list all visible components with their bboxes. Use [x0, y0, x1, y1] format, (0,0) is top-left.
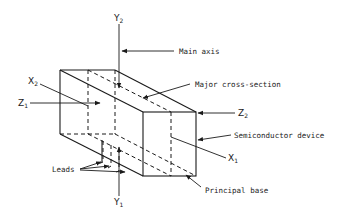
main-axis-label: Main axis [179, 47, 220, 56]
principal-base-pointer [186, 175, 201, 187]
x2-label: X2 [28, 76, 38, 87]
z1-label: Z1 [18, 98, 28, 109]
hidden-edges [60, 70, 196, 176]
semiconductor-device-pointer [198, 135, 231, 140]
x-axis [40, 84, 226, 158]
z-axis [30, 103, 235, 113]
device-box [60, 70, 196, 176]
semiconductor-device-label: Semiconductor device [234, 131, 325, 140]
major-cross-section-plane [88, 70, 171, 176]
x1-label: X1 [228, 153, 238, 164]
z2-label: Z2 [238, 108, 248, 119]
leads-label: Leads [52, 165, 75, 174]
major-cross-section-label: Major cross-section [195, 80, 281, 89]
principal-base-label: Principal base [205, 186, 269, 195]
semiconductor-diagram: Y2 Y1 X2 X1 Z1 Z2 Main axis Major cross-… [0, 0, 352, 214]
y2-label: Y2 [113, 13, 124, 24]
y1-label: Y1 [113, 197, 124, 208]
major-cross-section-pointer [143, 84, 190, 98]
